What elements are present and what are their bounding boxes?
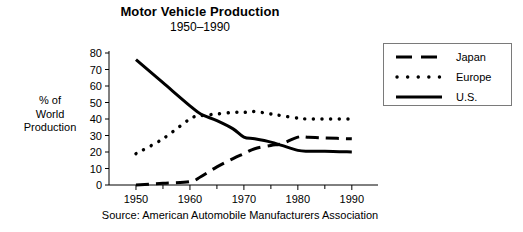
legend-swatch-dotted-icon [394,70,444,84]
source-caption: Source: American Automobile Manufacturer… [0,209,480,221]
legend-item-us: U.S. [384,86,511,107]
y-tick-label: 70 [90,64,102,76]
series-line-europe [136,112,352,154]
x-tick-label: 1950 [124,193,148,205]
legend: Japan Europe U.S. [383,43,512,106]
legend-label-japan: Japan [456,51,486,63]
y-tick-label: 30 [90,130,102,142]
y-tick-label: 40 [90,113,102,125]
x-tick-label: 1990 [340,193,364,205]
y-tick-label: 20 [90,146,102,158]
series-line-us [136,60,352,152]
x-tick-label: 1970 [232,193,256,205]
y-tick-label: 80 [90,47,102,59]
series-line-japan [136,137,352,185]
legend-swatch-solid-icon [394,90,444,104]
y-tick-label: 0 [96,179,102,191]
plot-area: 0102030405060708019501960197019801990 [0,0,523,232]
axes [105,51,378,190]
chart-figure: Motor Vehicle Production 1950–1990 % of … [0,0,523,232]
data-series [136,60,352,185]
legend-label-europe: Europe [456,71,491,83]
legend-swatch-dashed-icon [394,50,444,64]
legend-item-europe: Europe [384,66,511,87]
y-tick-label: 10 [90,163,102,175]
legend-item-japan: Japan [384,46,511,67]
x-tick-label: 1980 [286,193,310,205]
y-tick-label: 50 [90,97,102,109]
legend-label-us: U.S. [456,91,477,103]
x-tick-label: 1960 [178,193,202,205]
y-tick-label: 60 [90,80,102,92]
